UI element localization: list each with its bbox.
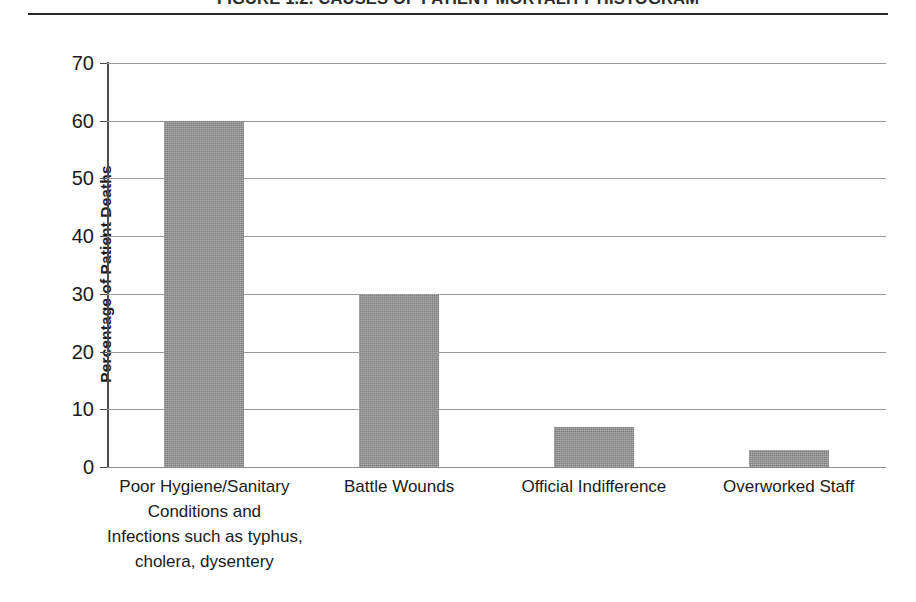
x-axis-category-label: Overworked Staff: [691, 474, 886, 499]
y-axis-tick: [100, 121, 107, 122]
y-axis-tick-label: 50: [72, 168, 94, 188]
plot-area: 010203040506070: [107, 63, 886, 467]
bar: [749, 450, 829, 467]
y-axis-tick-label: 10: [72, 399, 94, 419]
bar: [359, 294, 439, 467]
bar: [164, 121, 244, 467]
y-axis-tick: [100, 236, 107, 237]
y-axis-tick: [100, 294, 107, 295]
y-axis-tick: [100, 352, 107, 353]
x-axis-category-label: Poor Hygiene/SanitaryConditions andInfec…: [107, 474, 302, 574]
histogram-chart: Percentage of Patient Deaths 01020304050…: [0, 0, 916, 602]
y-axis-tick: [100, 178, 107, 179]
y-axis-tick-label: 70: [72, 53, 94, 73]
y-axis-tick-label: 40: [72, 226, 94, 246]
x-axis-category-label: Battle Wounds: [302, 474, 497, 499]
y-axis-tick-label: 0: [83, 457, 94, 477]
gridline: [107, 63, 886, 64]
gridline: [107, 467, 886, 468]
y-axis-tick-label: 20: [72, 342, 94, 362]
figure-page: FIGURE 1.2. CAUSES OF PATIENT MORTALITY …: [0, 0, 916, 602]
x-axis-category-label: Official Indifference: [497, 474, 692, 499]
y-axis-tick: [100, 467, 107, 468]
y-axis-tick: [100, 409, 107, 410]
y-axis-tick-label: 60: [72, 111, 94, 131]
y-axis-tick: [100, 63, 107, 64]
bar: [554, 427, 634, 467]
y-axis-tick-label: 30: [72, 284, 94, 304]
